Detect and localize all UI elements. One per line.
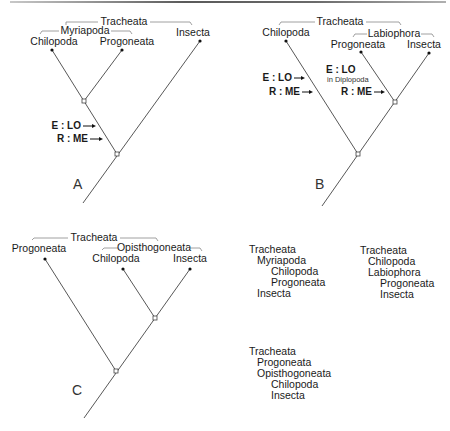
- classification-line: Insecta: [360, 289, 434, 300]
- tip-dot: [120, 48, 123, 51]
- branch-insecta: [84, 269, 190, 418]
- branch-progoneata: [45, 259, 116, 371]
- arrowhead-icon: [99, 137, 103, 141]
- tip-dot: [50, 48, 53, 51]
- annotation-detail: in Diplopoda: [327, 75, 370, 84]
- node-marker: [82, 99, 86, 103]
- tip-dot: [43, 257, 46, 260]
- taxon-label-insecta: Insecta: [407, 38, 441, 50]
- tree-a: Tracheata Myriapoda Chilopoda Progoneata…: [30, 15, 210, 203]
- arrowhead-icon: [381, 90, 385, 94]
- annotation-e-lo-diplopoda: E : LO: [326, 64, 356, 75]
- tree-c: Tracheata Opisthogoneata Progoneata Chil…: [12, 231, 207, 418]
- panel-label-a: A: [73, 176, 83, 192]
- panel-label-c: C: [72, 382, 82, 398]
- taxon-label-progoneata: Progoneata: [12, 242, 66, 254]
- taxon-label-chilopoda: Chilopoda: [262, 26, 309, 38]
- branch-chilopoda: [123, 269, 155, 318]
- annotation-e-lo: E : LO: [52, 120, 82, 131]
- tip-dot: [359, 50, 362, 53]
- tip-dot: [198, 39, 201, 42]
- tip-dot: [121, 267, 124, 270]
- tip-dot: [427, 51, 430, 54]
- classification-line: Insecta: [249, 390, 331, 401]
- tip-dot: [188, 267, 191, 270]
- node-marker: [393, 100, 397, 104]
- annotation-r-me: R : ME: [57, 133, 88, 144]
- node-marker: [114, 369, 118, 373]
- tip-dot: [284, 39, 287, 42]
- classification-b: Tracheata Chilopoda Labiophora Progoneat…: [360, 245, 434, 300]
- classification-a: Tracheata Myriapoda Chilopoda Progoneata…: [249, 244, 325, 299]
- arrowhead-icon: [92, 124, 96, 128]
- annotation-r-me: R : ME: [269, 86, 300, 97]
- annotation-r-me: R : ME: [341, 86, 372, 97]
- arrowhead-icon: [301, 76, 305, 80]
- taxon-label-chilopoda: Chilopoda: [92, 252, 139, 264]
- node-marker: [115, 152, 119, 156]
- tree-b: Tracheata Labiophora Chilopoda Progoneat…: [262, 15, 441, 206]
- taxon-label-progoneata: Progoneata: [100, 35, 154, 47]
- branch-progoneata: [84, 50, 122, 101]
- classification-line: Insecta: [249, 288, 325, 299]
- group-label-tracheata: Tracheata: [317, 15, 364, 27]
- taxon-label-chilopoda: Chilopoda: [30, 35, 77, 47]
- arrowhead-icon: [309, 90, 313, 94]
- taxon-label-progoneata: Progoneata: [331, 38, 385, 50]
- cladogram-figure: Tracheata Myriapoda Chilopoda Progoneata…: [0, 0, 450, 431]
- group-label-tracheata: Tracheata: [71, 231, 118, 243]
- node-marker: [153, 316, 157, 320]
- classification-c: Tracheata Progoneata Opisthogoneata Chil…: [249, 346, 331, 401]
- taxon-label-insecta: Insecta: [173, 252, 207, 264]
- panel-label-b: B: [315, 176, 324, 192]
- taxon-label-insecta: Insecta: [176, 26, 210, 38]
- branch-chilopoda: [286, 41, 358, 154]
- annotation-e-lo: E : LO: [263, 72, 293, 83]
- node-marker: [356, 152, 360, 156]
- branch-insecta: [83, 41, 200, 203]
